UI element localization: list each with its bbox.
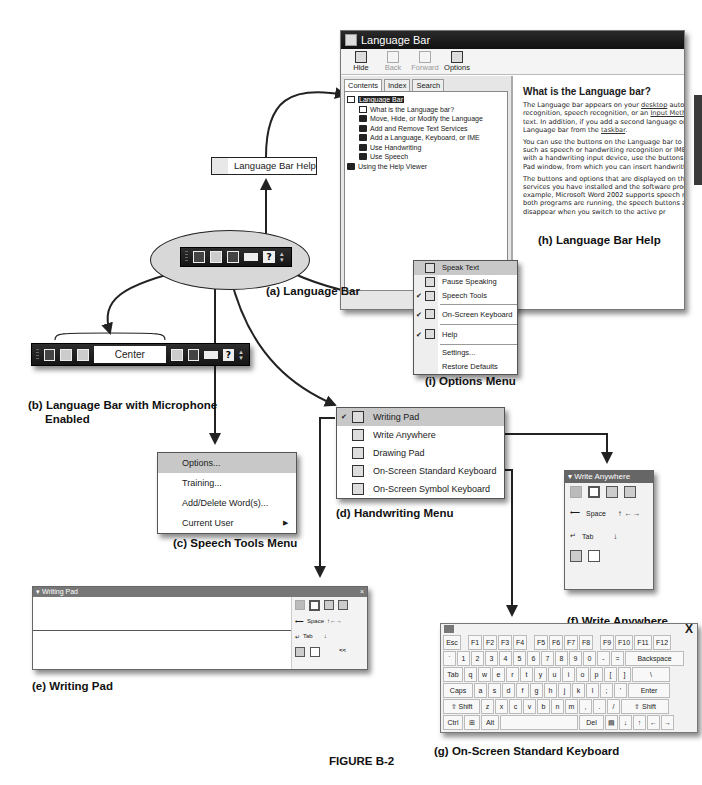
key[interactable]: b xyxy=(537,699,550,714)
key[interactable]: F12 xyxy=(653,635,671,650)
menu-item-write-anywhere[interactable]: Write Anywhere xyxy=(337,426,504,444)
text-mode-icon[interactable] xyxy=(309,600,320,611)
key-windows[interactable]: ⊞ xyxy=(464,715,480,730)
menu-item-help[interactable]: ✔Help xyxy=(414,326,517,343)
key[interactable]: x xyxy=(495,699,508,714)
menu-item-speak-text[interactable]: Speak Text xyxy=(414,261,517,275)
key[interactable]: 1 xyxy=(457,651,470,666)
menu-item-speech-tools[interactable]: ✔Speech Tools xyxy=(414,289,517,303)
key[interactable]: q xyxy=(464,667,477,682)
tree-item[interactable]: Using the Help Viewer xyxy=(347,162,505,172)
down-arrow-icon[interactable]: ↓ xyxy=(613,532,617,541)
keyboard-icon[interactable] xyxy=(624,486,636,498)
key-left-shift[interactable]: ⇧ Shift xyxy=(443,699,480,714)
tree-item[interactable]: Use Speech xyxy=(347,152,505,162)
key-menu[interactable]: ▤ xyxy=(605,715,618,730)
key[interactable]: 0 xyxy=(583,651,596,666)
taskbar-link[interactable]: taskbar xyxy=(601,126,625,134)
key[interactable]: r xyxy=(506,667,519,682)
key[interactable]: m xyxy=(565,699,578,714)
key-right-shift[interactable]: ⇧ Shift xyxy=(621,699,669,714)
key[interactable]: F10 xyxy=(615,635,633,650)
tree-item[interactable]: Language Bar xyxy=(347,95,505,105)
tree-item[interactable]: Use Handwriting xyxy=(347,143,505,153)
key[interactable]: 2 xyxy=(471,651,484,666)
key[interactable]: s xyxy=(488,683,501,698)
tree-item[interactable]: Add a Language, Keyboard, or IME xyxy=(347,133,505,143)
key[interactable]: = xyxy=(611,651,624,666)
menu-item-options[interactable]: Options... xyxy=(158,453,296,473)
space-button[interactable]: Space xyxy=(307,618,324,625)
input-method-link[interactable]: Input Method xyxy=(650,109,684,117)
key[interactable]: 4 xyxy=(499,651,512,666)
key[interactable]: g xyxy=(530,683,543,698)
help-icon[interactable]: ? xyxy=(263,251,275,263)
key[interactable]: F1 xyxy=(468,635,482,650)
drawing-pad-icon[interactable] xyxy=(606,486,618,498)
key[interactable]: ; xyxy=(600,683,613,698)
dictation-icon[interactable] xyxy=(60,349,72,361)
key[interactable]: 9 xyxy=(569,651,582,666)
collapse-icon[interactable]: << xyxy=(339,647,346,657)
forward-button[interactable]: Forward xyxy=(413,49,437,74)
key-space[interactable] xyxy=(500,715,578,730)
key[interactable]: w xyxy=(478,667,491,682)
arrow-keys-icon[interactable]: ↑ ←→ xyxy=(618,509,640,518)
key[interactable]: ] xyxy=(618,667,631,682)
key-up-arrow[interactable]: ↑ xyxy=(633,715,646,730)
close-icon[interactable]: × xyxy=(360,587,364,597)
clear-icon[interactable] xyxy=(295,600,305,610)
key-del[interactable]: Del xyxy=(579,715,604,730)
backspace-arrow-icon[interactable]: ⟵ xyxy=(570,509,580,517)
tree-item[interactable]: Add and Remove Text Services xyxy=(347,124,505,134)
desktop-link[interactable]: desktop xyxy=(641,101,667,109)
key[interactable]: - xyxy=(597,651,610,666)
key[interactable]: F9 xyxy=(600,635,614,650)
options-button[interactable]: Options xyxy=(445,49,469,74)
enter-arrow-icon[interactable]: ↵ xyxy=(570,532,576,540)
close-icon[interactable]: X xyxy=(685,622,693,636)
key-alt[interactable]: Alt xyxy=(481,715,499,730)
writing-pad-icon[interactable] xyxy=(588,550,600,562)
menu-item-symbol-keyboard[interactable]: On-Screen Symbol Keyboard xyxy=(337,480,504,498)
key-enter[interactable]: Enter xyxy=(628,683,670,698)
key-backspace[interactable]: Backspace xyxy=(625,651,684,666)
key[interactable]: v xyxy=(523,699,536,714)
key[interactable]: ' xyxy=(614,683,627,698)
grip-handle-icon[interactable] xyxy=(185,251,188,263)
speech-tools-icon[interactable] xyxy=(210,251,222,263)
menu-item-settings[interactable]: Settings... xyxy=(414,346,517,360)
tab-button[interactable]: Tab xyxy=(582,533,593,540)
grip-handle-icon[interactable] xyxy=(36,349,39,361)
tab-button[interactable]: Tab xyxy=(303,633,313,640)
key[interactable]: p xyxy=(590,667,603,682)
clear-icon[interactable] xyxy=(570,486,582,498)
backspace-arrow-icon[interactable]: ⟵ xyxy=(295,618,304,625)
key[interactable]: 5 xyxy=(513,651,526,666)
voice-command-icon[interactable] xyxy=(77,349,89,361)
key[interactable]: F11 xyxy=(634,635,652,650)
tree-item[interactable]: Move, Hide, or Modify the Language xyxy=(347,114,505,124)
key[interactable]: [ xyxy=(604,667,617,682)
key[interactable]: h xyxy=(544,683,557,698)
key[interactable]: l xyxy=(586,683,599,698)
key[interactable]: F2 xyxy=(483,635,497,650)
key[interactable]: / xyxy=(607,699,620,714)
keyboard-icon[interactable] xyxy=(204,351,217,359)
key[interactable]: 3 xyxy=(485,651,498,666)
key[interactable]: d xyxy=(502,683,515,698)
key[interactable]: a xyxy=(474,683,487,698)
options-arrow-icon[interactable]: ▴▾ xyxy=(239,349,245,361)
keyboard-icon[interactable] xyxy=(338,600,348,610)
speech-tools-icon[interactable] xyxy=(171,349,183,361)
key[interactable]: F7 xyxy=(564,635,578,650)
down-arrow-icon[interactable]: ↓ xyxy=(324,633,327,640)
key[interactable]: 6 xyxy=(527,651,540,666)
key[interactable]: u xyxy=(548,667,561,682)
recognize-icon[interactable] xyxy=(570,550,582,562)
key[interactable]: y xyxy=(534,667,547,682)
key[interactable]: F8 xyxy=(579,635,593,650)
key-left-arrow[interactable]: ← xyxy=(647,715,660,730)
menu-item-current-user[interactable]: Current User▶ xyxy=(158,513,296,533)
menu-item-training[interactable]: Training... xyxy=(158,473,296,493)
